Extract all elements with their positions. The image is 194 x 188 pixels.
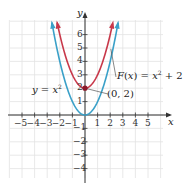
x-tick-label: −4 xyxy=(27,119,40,128)
y-tick-label: 3 xyxy=(77,70,83,79)
x-tick-label: 5 xyxy=(145,119,151,128)
y-axis-label: y xyxy=(77,8,83,18)
arrowhead-icon xyxy=(50,21,55,29)
y-tick-label: −2 xyxy=(73,137,86,146)
x-tick-label: 4 xyxy=(132,119,138,128)
label-y-equals-x-squared: y = x2 xyxy=(32,84,62,95)
x-tick-label: −3 xyxy=(39,119,52,128)
y-tick-label: 2 xyxy=(77,83,83,92)
axes xyxy=(8,12,172,183)
y-tick-label: 1 xyxy=(77,97,83,106)
x-tick-label: −5 xyxy=(14,119,27,128)
y-tick-label: 4 xyxy=(77,56,83,65)
x-tick-label: −2 xyxy=(52,119,65,128)
graph-canvas xyxy=(0,0,194,188)
x-tick-label: 2 xyxy=(107,119,113,128)
y-tick-label: −3 xyxy=(73,150,86,159)
label-point-0-2: (0, 2) xyxy=(107,89,134,99)
x-tick-label: 3 xyxy=(120,119,126,128)
y-tick-label: −4 xyxy=(73,164,86,173)
y-tick-label: −1 xyxy=(73,123,86,132)
y-tick-label: 5 xyxy=(77,43,83,52)
x-tick-label: 1 xyxy=(95,119,101,128)
label-f-of-x: F(x) = x2 + 2 xyxy=(117,70,183,81)
arrowhead-icon xyxy=(114,21,119,29)
point-0-2 xyxy=(82,86,87,91)
y-tick-label: 6 xyxy=(77,30,83,39)
x-axis-label: x xyxy=(168,117,174,127)
